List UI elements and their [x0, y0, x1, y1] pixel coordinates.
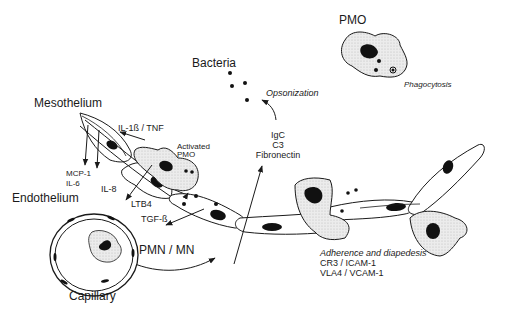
adherence-vla4-label: VLA4 / VCAM-1	[320, 269, 384, 278]
phagocytosis-label: Phagocytosis	[404, 81, 452, 89]
opsonin-igc-label: IgC	[254, 131, 302, 140]
opsonin-fibronectin-label: Fibronectin	[250, 151, 306, 160]
adherence-title-label: Adherence and diapedesis	[320, 249, 427, 258]
bacteria-label: Bacteria	[192, 57, 236, 69]
pmo-label: PMO	[339, 14, 366, 26]
mesothelium-label: Mesothelium	[34, 97, 102, 109]
opsonin-c3-label: C3	[254, 141, 302, 150]
il6-label: IL-6	[66, 180, 80, 188]
adherence-cr3-label: CR3 / ICAM-1	[320, 259, 376, 268]
opsonization-label: Opsonization	[266, 89, 319, 98]
endothelium-label: Endothelium	[12, 192, 79, 204]
pmn-mn-label: PMN / MN	[139, 244, 194, 256]
ltb4-label: LTB4	[131, 200, 152, 209]
il8-label: IL-8	[101, 185, 117, 194]
il1-tnf-label: IL-1ß / TNF	[118, 124, 164, 133]
capillary	[50, 214, 138, 296]
bacteria-dots	[228, 71, 249, 102]
capillary-label: Capillary	[69, 290, 116, 302]
activated-pmo-label-2: PMO	[177, 151, 195, 159]
tgf-label: TGF-ß	[141, 215, 168, 224]
opsonization-arrow	[262, 100, 276, 120]
mcp1-label: MCP-1	[66, 170, 91, 178]
pmo-cell	[341, 32, 407, 77]
